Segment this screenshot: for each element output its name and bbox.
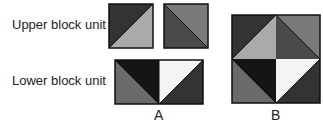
quilt-diagram (0, 0, 323, 133)
upper-block-1 (109, 4, 153, 48)
upper-block-2 (164, 4, 208, 48)
block-b (232, 15, 320, 103)
lower-block-a (115, 60, 203, 104)
